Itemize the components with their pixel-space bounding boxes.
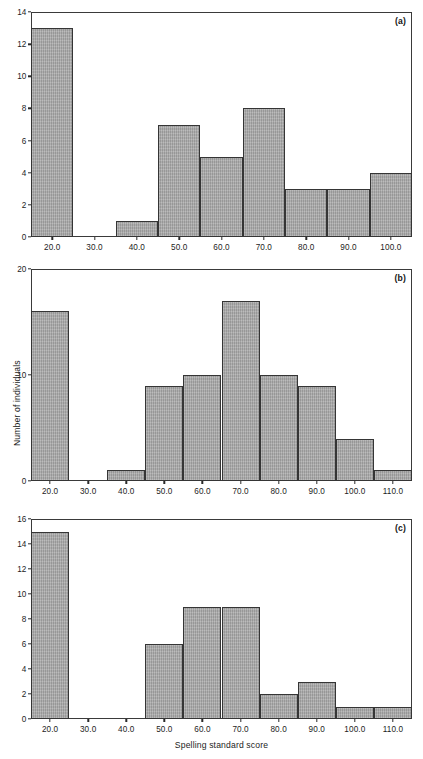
x-tick-mark xyxy=(87,481,88,484)
histogram-bar xyxy=(107,470,145,481)
y-axis-title: Number of individuals xyxy=(12,360,22,446)
histogram-bar xyxy=(145,386,183,481)
histogram-bar xyxy=(31,532,69,720)
y-tick-mark xyxy=(28,43,31,44)
x-tick-label: 60.0 xyxy=(194,725,210,734)
x-tick-mark xyxy=(202,481,203,484)
y-tick-mark xyxy=(28,518,31,519)
histogram-bar xyxy=(298,682,336,720)
x-tick-mark xyxy=(240,481,241,484)
x-tick-mark xyxy=(49,481,50,484)
histogram-bar xyxy=(222,301,260,481)
histogram-bar xyxy=(183,607,221,720)
x-tick-label: 50.0 xyxy=(156,725,172,734)
histogram-bar xyxy=(31,28,73,237)
x-tick-mark xyxy=(354,481,355,484)
y-tick-mark xyxy=(28,268,31,269)
x-tick-mark xyxy=(51,237,52,240)
x-tick-mark xyxy=(278,481,279,484)
y-tick-mark xyxy=(28,108,31,109)
histogram-bar xyxy=(285,189,327,237)
x-tick-mark xyxy=(202,719,203,722)
histogram-bar xyxy=(31,311,69,481)
x-tick-label: 110.0 xyxy=(383,487,403,496)
y-tick-mark xyxy=(28,643,31,644)
x-tick-mark xyxy=(164,719,165,722)
x-tick-mark xyxy=(278,719,279,722)
histogram-bar xyxy=(260,375,298,481)
histogram-bar xyxy=(200,157,242,237)
panel-b-bars xyxy=(31,269,412,481)
y-tick-mark xyxy=(28,236,31,237)
x-tick-mark xyxy=(126,719,127,722)
panel-c: (c) 024681012141620.030.040.050.060.070.… xyxy=(31,519,412,719)
panel-b-letter: (b) xyxy=(394,273,406,283)
y-tick-mark xyxy=(28,543,31,544)
x-tick-label: 100.0 xyxy=(344,725,365,734)
histogram-bar xyxy=(260,694,298,719)
histogram-bar xyxy=(158,125,200,238)
panel-c-letter: (c) xyxy=(395,523,406,533)
y-tick-mark xyxy=(28,480,31,481)
y-tick-mark xyxy=(28,76,31,77)
panel-a-letter: (a) xyxy=(395,16,406,26)
x-tick-label: 80.0 xyxy=(270,725,286,734)
x-tick-label: 40.0 xyxy=(118,487,134,496)
x-tick-label: 40.0 xyxy=(129,243,145,252)
histogram-bar xyxy=(222,607,260,720)
histogram-bar xyxy=(116,221,158,237)
x-tick-mark xyxy=(87,719,88,722)
x-tick-mark xyxy=(136,237,137,240)
y-tick-mark xyxy=(28,568,31,569)
x-tick-label: 30.0 xyxy=(80,487,96,496)
x-tick-label: 50.0 xyxy=(156,487,172,496)
x-tick-label: 80.0 xyxy=(270,487,286,496)
panel-a: (a) 0246810121420.030.040.050.060.070.08… xyxy=(31,12,412,237)
panel-a-bars xyxy=(31,12,412,237)
x-tick-label: 90.0 xyxy=(309,487,325,496)
x-tick-label: 100.0 xyxy=(344,487,365,496)
histogram-bar xyxy=(374,707,412,720)
panel-c-bars xyxy=(31,519,412,719)
histogram-bar xyxy=(374,470,412,481)
x-tick-mark xyxy=(354,719,355,722)
x-tick-mark xyxy=(94,237,95,240)
y-tick-mark xyxy=(28,11,31,12)
x-tick-label: 20.0 xyxy=(42,725,58,734)
x-tick-label: 60.0 xyxy=(194,487,210,496)
x-tick-mark xyxy=(164,481,165,484)
panel-b: (b) 0102020.030.040.050.060.070.080.090.… xyxy=(31,269,412,481)
y-tick-mark xyxy=(28,718,31,719)
histogram-bar xyxy=(327,189,369,237)
x-tick-mark xyxy=(316,481,317,484)
x-tick-mark xyxy=(178,237,179,240)
x-tick-label: 100.0 xyxy=(380,243,401,252)
histogram-bar xyxy=(183,375,221,481)
x-tick-label: 90.0 xyxy=(340,243,356,252)
histogram-bar xyxy=(336,707,374,720)
x-tick-mark xyxy=(263,237,264,240)
x-tick-mark xyxy=(240,719,241,722)
histogram-bar xyxy=(298,386,336,481)
histogram-bar xyxy=(243,108,285,237)
y-tick-mark xyxy=(28,668,31,669)
x-tick-label: 50.0 xyxy=(171,243,187,252)
x-axis-title: Spelling standard score xyxy=(31,740,412,750)
x-tick-label: 70.0 xyxy=(232,725,248,734)
y-tick-mark xyxy=(28,140,31,141)
y-tick-mark xyxy=(28,204,31,205)
x-tick-label: 30.0 xyxy=(80,725,96,734)
x-tick-mark xyxy=(348,237,349,240)
y-tick-mark xyxy=(28,693,31,694)
x-tick-mark xyxy=(221,237,222,240)
x-tick-label: 30.0 xyxy=(86,243,102,252)
histogram-bar xyxy=(370,173,412,237)
x-tick-mark xyxy=(390,237,391,240)
y-tick-mark xyxy=(28,618,31,619)
x-tick-label: 70.0 xyxy=(256,243,272,252)
x-tick-label: 90.0 xyxy=(309,725,325,734)
y-tick-mark xyxy=(28,593,31,594)
x-tick-mark xyxy=(392,719,393,722)
x-tick-mark xyxy=(316,719,317,722)
y-tick-mark xyxy=(28,172,31,173)
